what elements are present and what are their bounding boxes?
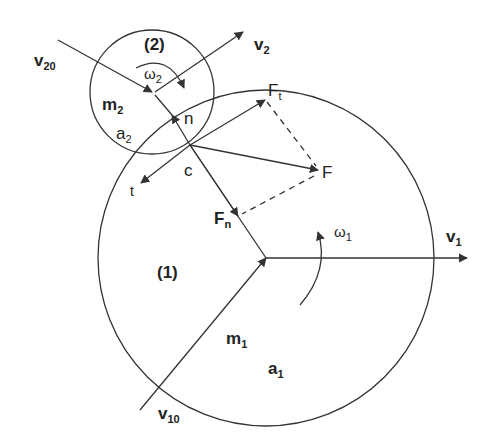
ft-arrow [190, 100, 265, 145]
label-f: F [322, 164, 332, 181]
label-fn: Fn [214, 210, 231, 230]
label-a2: a2 [116, 125, 132, 145]
label-v2: v2 [254, 36, 270, 56]
dashed-ft-f [267, 102, 316, 166]
label-v1: v1 [446, 228, 462, 248]
label-a1: a1 [268, 360, 284, 380]
label-body1: (1) [157, 264, 178, 281]
label-v10: v10 [158, 405, 180, 425]
label-body2: (2) [144, 36, 165, 53]
label-omega1: ω1 [334, 224, 352, 243]
n-line [155, 95, 172, 115]
label-omega2: ω2 [144, 66, 162, 85]
label-v20: v20 [34, 52, 56, 72]
label-t: t [130, 184, 134, 198]
label-n: n [184, 110, 193, 127]
fn-arrow [190, 145, 238, 216]
label-ft: Ft [268, 82, 281, 102]
omega1-arc [300, 232, 321, 305]
v2-arrow [155, 32, 243, 92]
t-arrow [141, 145, 190, 183]
collision-diagram [0, 0, 489, 441]
label-m1: m1 [226, 330, 247, 350]
label-contact-c: c [184, 162, 193, 179]
f-arrow [190, 145, 318, 170]
dashed-f-fn [242, 176, 314, 214]
label-m2: m2 [102, 96, 123, 116]
v20-line [58, 40, 152, 92]
